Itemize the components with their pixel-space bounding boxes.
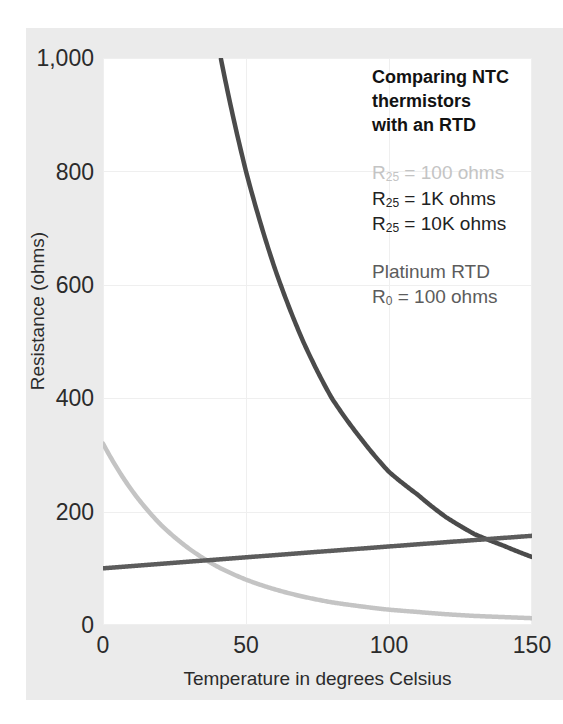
legend-item-ntc-1k: R25 = 1K ohms [372,186,537,212]
legend-ntc-10k-rest: = 10K ohms [399,213,506,234]
legend-ntc-100-sub: 25 [386,170,399,184]
legend-item-rtd-name: Platinum RTD [372,259,537,284]
legend-ntc-1k-rest: = 1K ohms [399,188,496,209]
legend-ntc-10k-prefix: R [372,213,386,234]
legend-rtd-rest: = 100 ohms [392,286,497,307]
legend-ntc-100-rest: = 100 ohms [399,162,504,183]
legend-title-line-2: thermistors [372,90,537,114]
legend-item-rtd-value: R0 = 100 ohms [372,284,537,310]
legend-item-ntc-100: R25 = 100 ohms [372,160,537,186]
legend-title-line-3: with an RTD [372,114,537,138]
legend-ntc-10k-sub: 25 [386,221,399,235]
x-tick-0: 0 [58,632,148,659]
legend-ntc-group: R25 = 100 ohms R25 = 1K ohms R25 = 10K o… [372,160,537,237]
x-axis-title: Temperature in degrees Celsius [103,668,532,690]
chart-root: Resistance (ohms) 1,000 800 600 400 200 … [0,0,563,724]
legend-rtd-prefix: R [372,286,386,307]
x-tick-50: 50 [201,632,291,659]
legend-item-ntc-10k: R25 = 10K ohms [372,211,537,237]
curve-platinum-rtd [103,536,532,568]
legend-ntc-100-prefix: R [372,162,386,183]
x-tick-100: 100 [344,632,434,659]
x-tick-150: 150 [487,632,563,659]
legend-ntc-1k-sub: 25 [386,196,399,210]
legend: Comparing NTC thermistors with an RTD R2… [372,66,537,310]
legend-title-line-1: Comparing NTC [372,66,537,90]
legend-title: Comparing NTC thermistors with an RTD [372,66,537,138]
legend-ntc-1k-prefix: R [372,188,386,209]
legend-rtd-group: Platinum RTD R0 = 100 ohms [372,259,537,310]
y-axis-title: Resistance (ohms) [27,161,49,461]
